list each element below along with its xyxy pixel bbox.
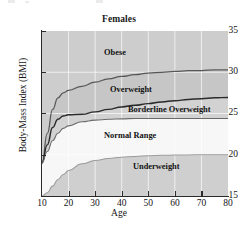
y-tick-mark-25 <box>42 113 46 114</box>
y-tick-label-20: 20 <box>210 149 238 159</box>
y-tick-mark-35 <box>42 31 46 32</box>
x-tick-label-80: 80 <box>215 198 238 208</box>
band-label-borderline-overweight: Borderline Overweight <box>128 105 211 114</box>
y-tick-label-35: 35 <box>210 25 238 35</box>
x-tick-label-40: 40 <box>109 198 135 208</box>
band-label-overweight: Overweight <box>110 85 152 94</box>
x-tick-mark-30 <box>95 191 96 196</box>
page-artifact <box>25 1 29 3</box>
band-label-normal-range: Normal Range <box>104 131 156 140</box>
y-tick-mark-30 <box>42 72 46 73</box>
page-artifact <box>96 0 103 3</box>
y-tick-label-25: 25 <box>210 107 238 117</box>
x-tick-label-20: 20 <box>56 198 82 208</box>
x-tick-mark-60 <box>175 191 176 196</box>
x-tick-mark-40 <box>122 191 123 196</box>
x-tick-mark-70 <box>201 191 202 196</box>
x-tick-label-70: 70 <box>188 198 214 208</box>
x-tick-mark-20 <box>69 191 70 196</box>
band-label-obese: Obese <box>104 48 126 57</box>
x-tick-label-50: 50 <box>135 198 161 208</box>
page-artifact <box>8 0 15 3</box>
x-tick-label-60: 60 <box>162 198 188 208</box>
x-axis-label: Age <box>0 208 238 218</box>
y-tick-mark-20 <box>42 155 46 156</box>
band-label-underweight: Underweight <box>133 162 180 171</box>
x-tick-label-30: 30 <box>82 198 108 208</box>
y-tick-label-30: 30 <box>210 66 238 76</box>
x-tick-label-10: 10 <box>29 198 55 208</box>
x-tick-mark-50 <box>148 191 149 196</box>
y-axis-label: Body-Mass Index (BMI) <box>18 35 28 175</box>
bmi-chart-figure: Females Body-Mass Index (BMI) Age 35 30 … <box>0 0 238 229</box>
chart-title: Females <box>0 14 238 24</box>
